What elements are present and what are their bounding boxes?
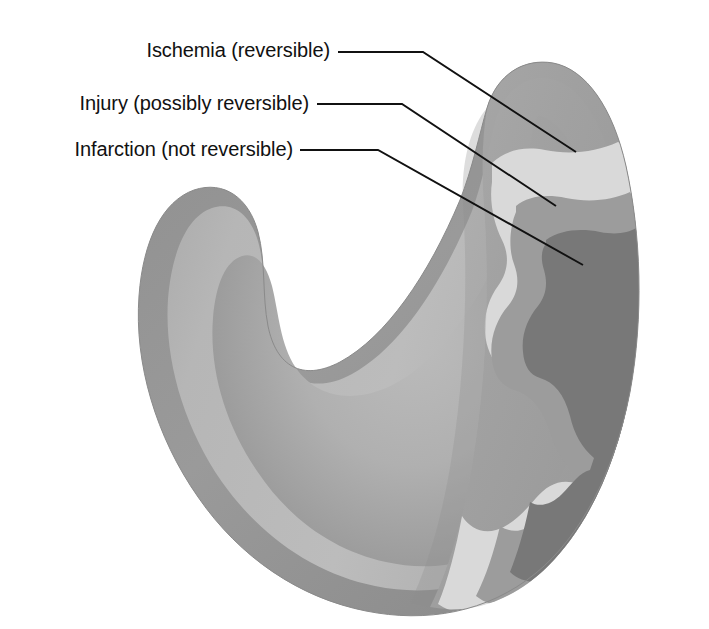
- callout-labels: Ischemia (reversible) Injury (possibly r…: [74, 39, 330, 160]
- myocardial-ischemia-diagram: Ischemia (reversible) Injury (possibly r…: [0, 0, 709, 629]
- label-ischemia: Ischemia (reversible): [146, 39, 330, 61]
- label-infarction: Infarction (not reversible): [74, 138, 293, 160]
- label-injury: Injury (possibly reversible): [80, 92, 310, 114]
